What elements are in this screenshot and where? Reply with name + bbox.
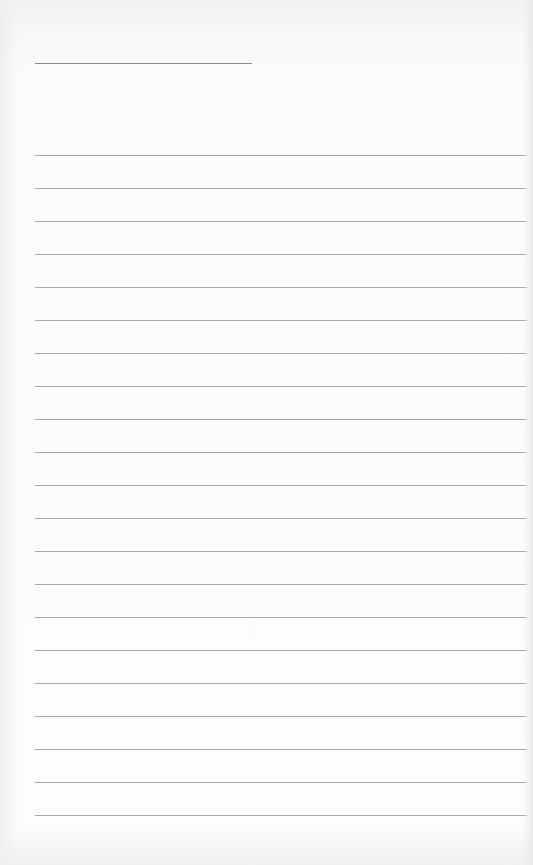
ruled-line bbox=[35, 518, 527, 519]
ruled-line bbox=[35, 650, 527, 651]
title-rule-line bbox=[35, 63, 252, 64]
ruled-line bbox=[35, 386, 527, 387]
ruled-line bbox=[35, 419, 527, 420]
ruled-line bbox=[35, 254, 527, 255]
ruled-line bbox=[35, 749, 527, 750]
ruled-line bbox=[35, 188, 527, 189]
ruled-line bbox=[35, 221, 527, 222]
ruled-line bbox=[35, 320, 527, 321]
notepad-page bbox=[0, 0, 533, 865]
page-bottom-shadow bbox=[0, 825, 533, 865]
ruled-line bbox=[35, 287, 527, 288]
ruled-line bbox=[35, 353, 527, 354]
ruled-line bbox=[35, 815, 527, 816]
ruled-line bbox=[35, 716, 527, 717]
ruled-line bbox=[35, 782, 527, 783]
ruled-line bbox=[35, 155, 527, 156]
ruled-line bbox=[35, 683, 527, 684]
ruled-line bbox=[35, 617, 527, 618]
ruled-line bbox=[35, 452, 527, 453]
ruled-line bbox=[35, 485, 527, 486]
ruled-line bbox=[35, 551, 527, 552]
ruled-line bbox=[35, 584, 527, 585]
